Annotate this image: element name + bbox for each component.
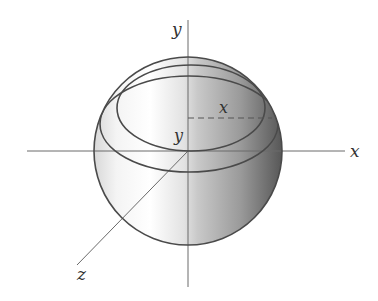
radius-label: x [219, 98, 228, 117]
height-label: y [173, 126, 184, 145]
z-axis-label: z [76, 264, 87, 284]
y-axis-label: y [171, 19, 182, 39]
sphere-diagram: y x z x y [0, 0, 378, 301]
x-axis-label: x [350, 141, 360, 161]
